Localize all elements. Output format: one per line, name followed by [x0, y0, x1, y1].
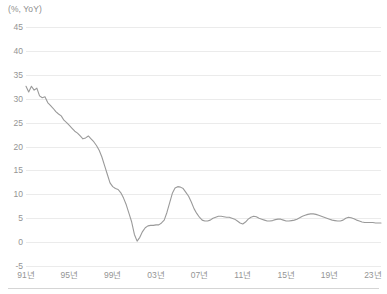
y-axis-tick-label: 45 [1, 22, 23, 32]
y-axis-tick-label: 5 [1, 213, 23, 223]
y-axis-tick-label: 35 [1, 70, 23, 80]
x-axis-tick-label: 07년 [191, 268, 208, 280]
line-series-path [26, 86, 381, 241]
bottom-divider [8, 288, 379, 289]
x-axis-tick-label: 11년 [234, 268, 251, 280]
x-axis-tick-label: 23년 [364, 268, 381, 280]
x-axis-tick-labels: 91년95년99년03년07년11년15년19년23년 [26, 268, 381, 284]
y-axis-tick-label: 10 [1, 189, 23, 199]
x-axis-tick-label: 91년 [17, 268, 34, 280]
y-axis-tick-label: 40 [1, 46, 23, 56]
x-axis-tick-label: 03년 [147, 268, 164, 280]
y-axis-tick-label: 20 [1, 142, 23, 152]
x-axis-tick-label: 15년 [277, 268, 294, 280]
line-series-svg [26, 27, 381, 266]
y-axis-tick-label: 25 [1, 118, 23, 128]
gridline [26, 266, 381, 267]
x-axis-tick-label: 95년 [61, 268, 78, 280]
plot-area [26, 27, 381, 266]
y-axis-unit-label: (%, YoY) [8, 4, 42, 14]
y-axis-tick-label: 15 [1, 165, 23, 175]
chart-container: (%, YoY) 454035302520151050-5 91년95년99년0… [0, 0, 387, 294]
y-axis-tick-labels: 454035302520151050-5 [0, 27, 23, 266]
x-axis-tick-label: 19년 [321, 268, 338, 280]
y-axis-tick-label: 30 [1, 94, 23, 104]
y-axis-tick-label: 0 [1, 237, 23, 247]
x-axis-tick-label: 99년 [104, 268, 121, 280]
